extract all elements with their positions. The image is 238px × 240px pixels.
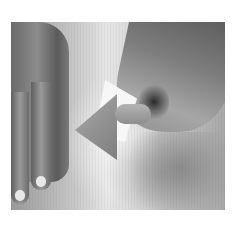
fingernail	[36, 176, 46, 187]
left-hand-finger-1	[11, 92, 29, 204]
fingernail	[15, 190, 25, 201]
left-hand-finger-2	[31, 82, 51, 190]
right-thumb	[115, 104, 151, 124]
photograph	[11, 22, 225, 210]
cloth-shadow	[126, 132, 225, 210]
